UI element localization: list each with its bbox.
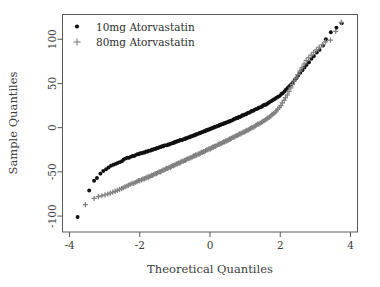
y-tick-label: -100 [47, 204, 59, 228]
y-tick-label: 100 [47, 29, 59, 49]
y-tick-label: 0 [47, 124, 59, 131]
legend-marker-filled-circle-icon [75, 24, 79, 28]
y-tick-label: 50 [47, 77, 59, 90]
y-axis-title: Sample Quantiles [6, 71, 20, 174]
x-tick-label: 4 [347, 239, 354, 251]
x-axis-title: Theoretical Quantiles [147, 262, 273, 276]
chart-canvas: -4-2024 100500-50-100 Theoretical Quanti… [0, 0, 380, 287]
y-tick-label: -50 [47, 163, 59, 180]
x-tick-label: -2 [135, 239, 145, 251]
x-tick-label: 2 [277, 239, 284, 251]
legend-label-10mg: 10mg Atorvastatin [96, 21, 195, 33]
x-tick-label: 0 [207, 239, 214, 251]
legend-label-80mg: 80mg Atorvastatin [96, 36, 195, 48]
qq-plot-figure: -4-2024 100500-50-100 Theoretical Quanti… [0, 0, 380, 287]
x-tick-label: -4 [64, 239, 75, 251]
